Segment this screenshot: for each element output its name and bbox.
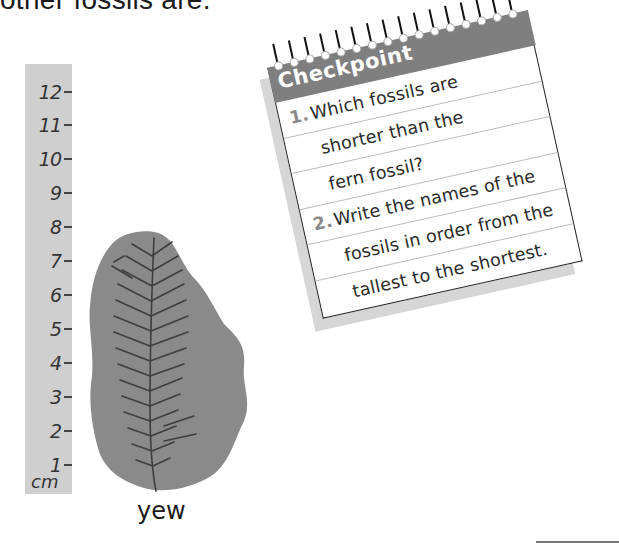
question-number: 1. (287, 104, 310, 128)
ruler-unit: cm (31, 471, 58, 492)
ruler-tick-2: 2 (27, 420, 72, 442)
ruler-tick-3: 3 (27, 386, 72, 408)
ruler-tick-12: 12 (27, 81, 72, 103)
question-number: 2. (311, 211, 334, 235)
ruler-tick-5: 5 (27, 318, 72, 340)
yew-fossil-image (84, 226, 254, 496)
ruler-tick-11: 11 (27, 114, 72, 136)
ruler-tick-8: 8 (27, 216, 72, 238)
ruler-tick-7: 7 (27, 250, 72, 272)
ruler-tick-6: 6 (27, 284, 72, 306)
ruler-tick-4: 4 (27, 352, 72, 374)
ruler-tick-10: 10 (27, 148, 72, 170)
intro-text: other fossils are. (0, 0, 211, 16)
fossil-label: yew (137, 497, 186, 525)
checkpoint-card: Checkpoint 1. Which fossils are (267, 10, 583, 319)
centimeter-ruler: 12 11 10 9 8 7 6 5 4 3 2 1 cm (25, 64, 72, 494)
ruler-tick-9: 9 (27, 182, 72, 204)
